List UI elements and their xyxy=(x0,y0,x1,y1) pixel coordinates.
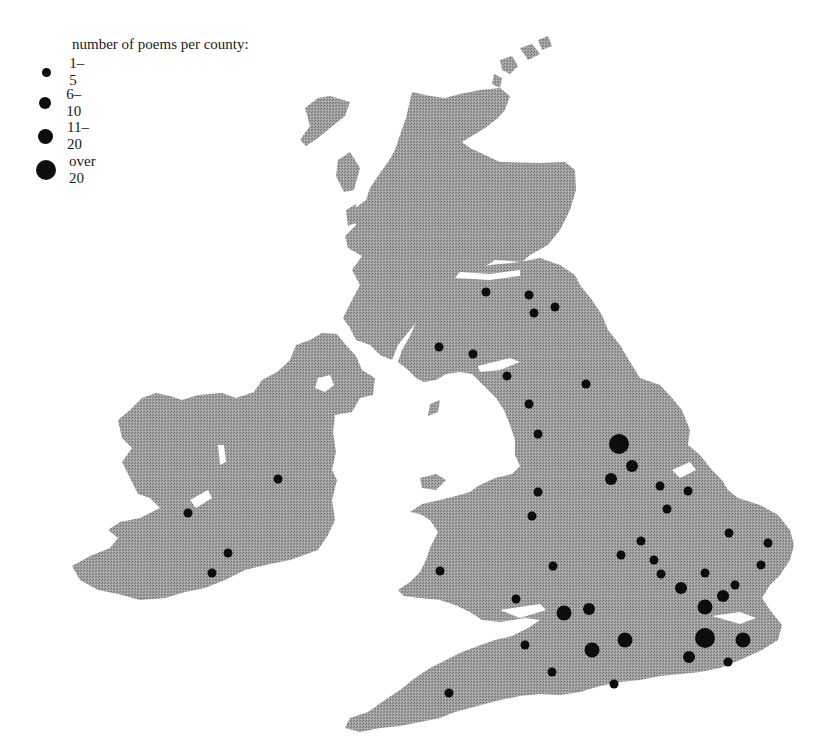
county-dot xyxy=(698,600,713,615)
county-dot xyxy=(583,603,595,615)
legend-item-11-20: 11–20 xyxy=(36,126,95,146)
county-dot xyxy=(557,606,572,621)
legend-label: 6–10 xyxy=(66,86,88,120)
county-dot xyxy=(618,633,633,648)
county-dot xyxy=(435,343,444,352)
county-dot xyxy=(525,400,534,409)
county-dot xyxy=(530,309,539,318)
county-dot xyxy=(548,668,557,677)
county-dot xyxy=(609,434,629,454)
small-dot-icon xyxy=(42,68,51,77)
county-dot xyxy=(724,658,733,667)
county-dot xyxy=(184,509,193,518)
county-dot xyxy=(663,505,672,514)
county-dot xyxy=(445,689,454,698)
county-dot xyxy=(549,562,558,571)
legend-item-over-20: over 20 xyxy=(36,160,100,180)
legend-label: over 20 xyxy=(69,153,100,187)
county-dot xyxy=(525,291,534,300)
county-dot xyxy=(528,512,537,521)
county-dot xyxy=(585,643,600,658)
county-dot xyxy=(650,556,659,565)
legend-label: 11–20 xyxy=(67,119,95,153)
county-dot xyxy=(582,380,591,389)
county-dot xyxy=(551,303,560,312)
british-isles-map xyxy=(0,0,829,753)
county-dot xyxy=(675,582,687,594)
county-dot xyxy=(534,430,543,439)
county-dot xyxy=(605,473,617,485)
legend-item-6-10: 6–10 xyxy=(36,93,88,113)
county-dot xyxy=(512,595,521,604)
medium-dot-icon xyxy=(39,97,51,109)
county-dot xyxy=(717,590,729,602)
county-dot xyxy=(208,569,217,578)
county-dot xyxy=(695,628,715,648)
large-dot-icon xyxy=(38,129,53,144)
legend-title: number of poems per county: xyxy=(72,36,249,53)
county-dot xyxy=(521,641,530,650)
county-dot xyxy=(626,460,638,472)
county-dot xyxy=(224,549,233,558)
county-dot xyxy=(610,680,619,689)
county-dot xyxy=(637,537,646,546)
county-dot xyxy=(617,551,626,560)
county-dot xyxy=(436,567,445,576)
county-dot xyxy=(534,488,543,497)
county-dot xyxy=(725,529,734,538)
county-dot xyxy=(684,487,693,496)
xlarge-dot-icon xyxy=(36,160,56,180)
county-dot xyxy=(657,570,666,579)
ireland-landmass xyxy=(72,333,375,600)
county-dot xyxy=(274,475,283,484)
county-dot xyxy=(683,651,695,663)
county-dot xyxy=(482,288,491,297)
legend-label: 1–5 xyxy=(69,55,88,89)
county-dot xyxy=(731,581,740,590)
county-dot xyxy=(469,350,478,359)
county-dot xyxy=(656,482,665,491)
county-dot xyxy=(764,539,773,548)
legend-item-1-5: 1–5 xyxy=(36,62,88,82)
county-dot xyxy=(736,633,751,648)
county-dot xyxy=(757,561,766,570)
county-dot xyxy=(701,569,710,578)
county-dot xyxy=(503,372,512,381)
